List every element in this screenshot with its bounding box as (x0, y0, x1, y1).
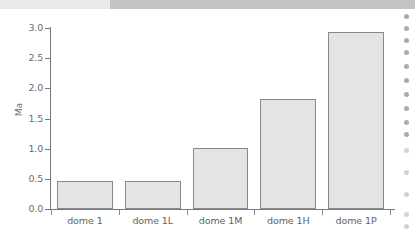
y-tick-label: 2.0 (3, 83, 43, 93)
bar (193, 148, 249, 209)
x-tick-label: dome 1 (51, 216, 119, 226)
bar (125, 181, 181, 209)
x-tick-mark (51, 210, 52, 215)
y-tick-mark (45, 179, 50, 180)
x-tick-mark (254, 210, 255, 215)
bar (260, 99, 316, 209)
y-tick-mark (45, 88, 50, 89)
bar-chart: Ma 0.00.51.01.52.02.53.0 dome 1dome 1Ldo… (0, 9, 415, 232)
x-tick-mark (390, 210, 391, 215)
x-tick-mark (187, 210, 188, 215)
x-tick-label: dome 1H (254, 216, 322, 226)
y-tick-label: 0.0 (3, 204, 43, 214)
y-tick-mark (45, 58, 50, 59)
x-tick-mark (322, 210, 323, 215)
x-tick-mark (119, 210, 120, 215)
scanned-page-top-band (0, 0, 415, 9)
bar (57, 181, 113, 209)
y-axis-line (50, 27, 51, 210)
x-tick-label: dome 1P (322, 216, 390, 226)
x-axis-line (50, 209, 395, 210)
top-band-left-segment (0, 0, 110, 9)
y-tick-mark (45, 209, 50, 210)
y-tick-label: 1.0 (3, 144, 43, 154)
top-band-right-segment (110, 0, 415, 9)
bar (328, 32, 384, 209)
y-tick-mark (45, 119, 50, 120)
y-tick-label: 0.5 (3, 174, 43, 184)
y-tick-mark (45, 28, 50, 29)
x-tick-label: dome 1M (187, 216, 255, 226)
x-tick-label: dome 1L (119, 216, 187, 226)
y-tick-mark (45, 149, 50, 150)
y-tick-label: 1.5 (3, 114, 43, 124)
y-tick-label: 2.5 (3, 53, 43, 63)
y-tick-label: 3.0 (3, 23, 43, 33)
